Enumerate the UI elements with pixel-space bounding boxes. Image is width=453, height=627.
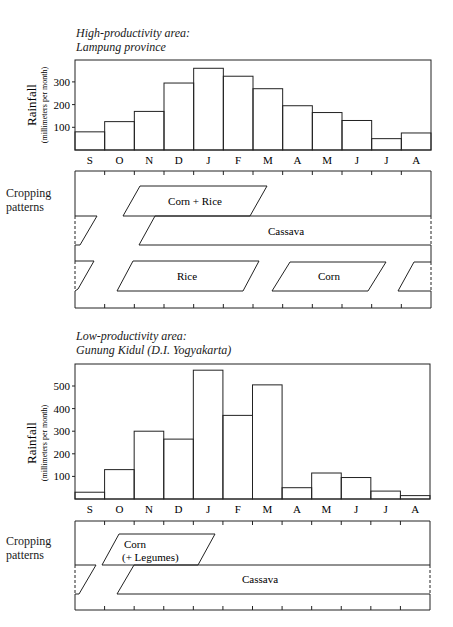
y-tick-label: 100 — [54, 470, 71, 482]
month-label: O — [116, 154, 124, 166]
y-tick-label: 300 — [54, 76, 71, 88]
bar-J — [371, 491, 401, 499]
bar-S — [75, 132, 105, 150]
bar-D — [164, 83, 194, 150]
bar-D — [164, 439, 194, 499]
month-label: S — [87, 154, 93, 166]
bar-M — [312, 113, 342, 150]
month-label: S — [87, 503, 93, 515]
bars — [75, 68, 431, 150]
bar-A — [283, 106, 313, 150]
bar-J — [342, 120, 372, 150]
crop-block-cassava-carryover — [75, 216, 97, 245]
month-label: M — [322, 154, 332, 166]
bar-J — [372, 139, 402, 150]
bars — [75, 370, 430, 499]
month-label: O — [115, 503, 123, 515]
crop-label-corn: Corn — [318, 270, 341, 282]
y-tick-label: 500 — [54, 380, 71, 392]
month-label: J — [206, 154, 211, 166]
bar-S — [75, 492, 105, 499]
bar-O — [105, 470, 135, 499]
month-label: J — [206, 503, 211, 515]
month-label: N — [145, 503, 153, 515]
month-label: A — [412, 154, 420, 166]
bar-M — [253, 89, 283, 150]
panel-2-cropping-diagram — [75, 521, 430, 610]
bar-M — [253, 385, 283, 499]
crop-label-cassava: Cassava — [242, 573, 278, 585]
crop-label-rice: Rice — [177, 270, 197, 282]
month-label: N — [145, 154, 153, 166]
figure-canvas: 100200300 Rainfall (millimeters per mont… — [0, 0, 453, 627]
month-label: J — [384, 154, 389, 166]
month-label: J — [383, 503, 388, 515]
y-ticks: 100200300 — [54, 76, 76, 133]
month-label: M — [262, 503, 272, 515]
month-label: J — [354, 503, 359, 515]
y-ticks: 100200300400500 — [54, 380, 76, 482]
bar-A — [401, 133, 431, 150]
crop-label-legumes: (+ Legumes) — [122, 551, 179, 564]
y-tick-label: 200 — [54, 99, 71, 111]
crop-label-cassava: Cassava — [268, 225, 304, 237]
bar-F — [223, 76, 253, 150]
month-label: A — [411, 503, 419, 515]
month-labels: SONDJFMAMJJA — [87, 154, 420, 166]
y-axis-label: Rainfall — [24, 422, 39, 464]
bar-A — [282, 488, 312, 499]
y-axis-label: Rainfall — [24, 84, 39, 126]
bar-A — [400, 496, 430, 499]
bar-J — [341, 478, 371, 499]
y-axis-sublabel: (millimeters per month) — [40, 66, 49, 143]
crop-block-cassava-carryover — [75, 565, 96, 594]
month-label: F — [235, 503, 241, 515]
month-label: D — [175, 154, 183, 166]
y-tick-label: 200 — [54, 448, 71, 460]
month-label: J — [355, 154, 360, 166]
crop-label-corn-rice: Corn + Rice — [168, 195, 222, 207]
panel-1-rainfall-chart: 100200300 Rainfall (millimeters per mont… — [24, 60, 431, 166]
y-tick-label: 400 — [54, 403, 71, 415]
bar-F — [223, 415, 253, 499]
month-labels: SONDJFMAMJJA — [87, 503, 420, 515]
bar-J — [193, 370, 223, 499]
bar-N — [134, 111, 164, 150]
bar-J — [194, 68, 224, 150]
panel-2-rainfall-chart: 100200300400500 Rainfall (millimeters pe… — [24, 364, 430, 515]
crop-label-corn: Corn — [124, 538, 147, 550]
month-label: M — [322, 503, 332, 515]
bar-N — [134, 431, 164, 499]
y-tick-label: 100 — [54, 121, 71, 133]
crop-block-row2-carryover-left — [75, 261, 94, 291]
bar-O — [105, 122, 135, 150]
month-label: A — [293, 503, 301, 515]
crop-block-row2-continuing-right — [398, 262, 431, 291]
bar-M — [312, 473, 342, 499]
month-label: A — [294, 154, 302, 166]
y-tick-label: 300 — [54, 425, 71, 437]
month-label: M — [263, 154, 273, 166]
panel-1-cropping-diagram — [75, 171, 431, 308]
y-axis-sublabel: (millimeters per month) — [40, 404, 49, 481]
month-label: F — [235, 154, 241, 166]
month-label: D — [175, 503, 183, 515]
